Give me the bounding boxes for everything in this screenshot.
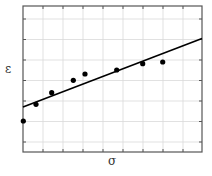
grid-lines <box>23 6 202 152</box>
scatter-plot <box>0 0 212 176</box>
data-point <box>160 59 165 64</box>
axis-ticks <box>23 6 202 152</box>
data-point <box>21 118 26 123</box>
data-point <box>49 90 54 95</box>
plot-frame <box>23 6 202 152</box>
regression-line <box>23 39 202 108</box>
data-point <box>114 67 119 72</box>
data-point <box>140 61 145 66</box>
data-point <box>33 102 38 107</box>
data-point <box>82 71 87 76</box>
data-points <box>21 59 166 123</box>
x-axis-label: σ <box>108 155 116 167</box>
y-axis-label: ε <box>5 63 11 75</box>
data-point <box>71 78 76 83</box>
